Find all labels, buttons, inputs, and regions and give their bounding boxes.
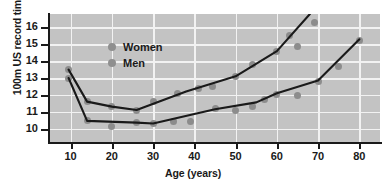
x-tick	[318, 142, 320, 149]
y-tick	[41, 95, 49, 97]
y-tick	[41, 44, 49, 46]
x-tick	[153, 142, 155, 149]
fit-lines-layer	[50, 14, 380, 142]
x-tick	[112, 142, 114, 149]
legend-label-men: Men	[123, 57, 145, 69]
x-tick-label: 80	[344, 150, 374, 162]
x-axis-spine	[48, 142, 382, 144]
legend-label-women: Women	[123, 41, 163, 53]
y-tick	[41, 27, 49, 29]
y-tick	[41, 112, 49, 114]
y-tick-label: 12	[0, 88, 38, 100]
legend-item-men: Men	[108, 55, 163, 71]
x-tick-label: 10	[56, 150, 86, 162]
legend-marker-men-icon	[108, 59, 116, 67]
x-tick	[236, 142, 238, 149]
y-tick-label: 16	[0, 20, 38, 32]
y-tick	[41, 78, 49, 80]
x-tick-label: 60	[262, 150, 292, 162]
chart-figure: 100m US record times Age (years) Women M…	[0, 0, 386, 193]
y-tick-label: 10	[0, 122, 38, 134]
x-tick-label: 40	[179, 150, 209, 162]
legend-item-women: Women	[108, 39, 163, 55]
y-tick-label: 11	[0, 105, 38, 117]
legend-marker-women-icon	[108, 43, 116, 51]
x-tick	[359, 142, 361, 149]
y-tick	[41, 129, 49, 131]
x-tick	[277, 142, 279, 149]
legend: Women Men	[108, 39, 163, 71]
x-tick-label: 20	[97, 150, 127, 162]
y-tick-label: 13	[0, 71, 38, 83]
x-tick-label: 70	[303, 150, 333, 162]
x-axis-label: Age (years)	[0, 167, 386, 179]
plot-area: Women Men	[50, 14, 380, 142]
y-tick-label: 15	[0, 37, 38, 49]
y-tick-label: 14	[0, 54, 38, 66]
x-tick	[194, 142, 196, 149]
x-tick	[71, 142, 73, 149]
y-tick	[41, 61, 49, 63]
x-tick-label: 30	[138, 150, 168, 162]
x-tick-label: 50	[221, 150, 251, 162]
